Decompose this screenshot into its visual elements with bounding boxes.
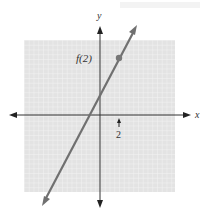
x-axis-label: x <box>194 109 200 120</box>
line-arrow-top-icon <box>129 25 137 35</box>
top-cropped-strip <box>120 2 200 8</box>
arrow-left-icon <box>9 112 17 118</box>
function-graph: x y f(2) 2 <box>0 0 208 217</box>
arrow-right-icon <box>183 112 191 118</box>
point-f2 <box>116 55 122 61</box>
arrow-up-icon <box>97 26 103 34</box>
point-label: f(2) <box>76 52 92 65</box>
tick-label: 2 <box>116 129 121 140</box>
y-axis-label: y <box>96 10 102 21</box>
arrow-down-icon <box>97 200 103 208</box>
line-arrow-bottom-icon <box>42 196 50 206</box>
